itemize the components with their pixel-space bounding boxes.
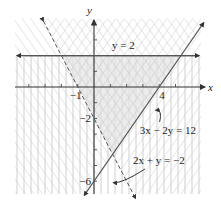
y-tick-label: −6 — [79, 175, 91, 187]
y-tick-label: −2 — [79, 112, 91, 124]
inequality-graph: xy−14−2−6y = 23x − 2y = 122x + y = −2 — [0, 0, 221, 206]
x-axis-label: x — [207, 81, 213, 93]
boundary-label: 3x − 2y = 12 — [140, 124, 196, 136]
boundary-label: y = 2 — [112, 39, 135, 51]
boundary-label: 2x + y = −2 — [133, 154, 185, 166]
x-tick-label: 4 — [159, 89, 165, 101]
x-tick-label: −1 — [70, 89, 82, 101]
y-axis-label: y — [86, 4, 92, 16]
